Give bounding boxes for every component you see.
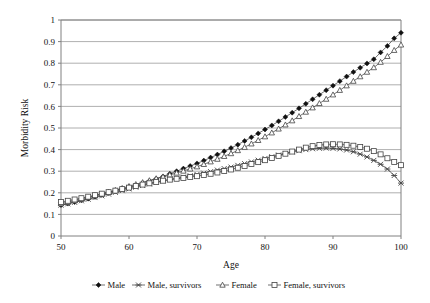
data-point-marker — [263, 158, 268, 163]
data-point-marker — [331, 142, 336, 147]
data-point-marker — [290, 110, 295, 115]
data-point-marker — [371, 65, 376, 70]
data-point-marker — [385, 156, 390, 161]
data-point-marker — [256, 160, 261, 165]
data-point-marker — [350, 149, 356, 154]
data-point-marker — [337, 79, 342, 84]
data-point-marker — [242, 144, 247, 149]
data-point-marker — [351, 70, 356, 75]
x-tick-label: 90 — [329, 242, 339, 252]
chart-legend: MaleMale, survivorsFemaleFemale, survivo… — [92, 280, 346, 290]
y-tick-label: 0.7 — [44, 80, 56, 90]
series-female — [58, 42, 403, 206]
data-point-marker — [317, 143, 322, 148]
data-point-marker — [337, 142, 342, 147]
data-point-marker — [269, 123, 274, 128]
data-point-marker — [256, 138, 261, 143]
data-point-marker — [378, 152, 383, 157]
y-tick-label: 0.8 — [44, 58, 56, 68]
y-tick-label: 0.2 — [44, 188, 55, 198]
data-point-marker — [344, 74, 349, 79]
data-point-marker — [208, 171, 213, 176]
data-point-marker — [310, 105, 315, 110]
data-point-marker — [127, 185, 132, 190]
data-point-marker — [324, 88, 329, 93]
series-male — [59, 30, 404, 207]
data-point-marker — [303, 145, 308, 150]
data-point-marker — [331, 83, 336, 88]
data-point-marker — [222, 153, 227, 158]
legend-item-female-survivors[interactable]: Female, survivors — [268, 280, 346, 290]
data-point-marker — [364, 69, 369, 74]
data-point-marker — [296, 114, 301, 119]
data-point-marker — [229, 167, 234, 172]
x-tick-label: 100 — [394, 242, 408, 252]
data-point-marker — [303, 101, 308, 106]
y-axis-title: Morbidity Risk — [20, 99, 30, 158]
data-point-marker — [215, 156, 220, 161]
x-tick-label: 80 — [261, 242, 271, 252]
data-point-marker — [113, 188, 118, 193]
y-tick-label: 0 — [51, 231, 56, 241]
data-point-marker — [290, 118, 295, 123]
legend-item-female[interactable]: Female — [216, 280, 257, 290]
data-point-marker — [303, 109, 308, 114]
data-point-marker — [235, 165, 240, 170]
data-point-marker — [337, 87, 342, 92]
series-line — [61, 148, 401, 205]
y-tick-label: 0.6 — [44, 102, 56, 112]
x-axis-ticks: 5060708090100 — [57, 236, 409, 252]
data-point-marker — [392, 159, 397, 164]
data-point-marker — [272, 283, 277, 288]
data-point-marker — [96, 283, 101, 288]
data-point-marker — [358, 74, 363, 79]
data-point-marker — [208, 159, 213, 164]
morbidity-risk-chart: 00.10.20.30.40.50.60.70.80.91 5060708090… — [0, 0, 430, 303]
data-point-marker — [235, 142, 240, 147]
data-point-marker — [344, 83, 349, 88]
data-point-marker — [72, 197, 77, 202]
data-point-marker — [378, 162, 384, 167]
data-point-marker — [317, 101, 322, 106]
data-point-marker — [324, 96, 329, 101]
data-point-marker — [79, 196, 84, 201]
data-point-marker — [344, 148, 350, 153]
data-point-marker — [106, 190, 111, 195]
data-point-marker — [161, 178, 166, 183]
legend-item-male-survivors[interactable]: Male, survivors — [132, 280, 202, 290]
data-point-marker — [276, 119, 281, 124]
data-point-marker — [249, 162, 254, 167]
data-point-marker — [242, 164, 247, 169]
data-point-marker — [351, 143, 356, 148]
grid-lines — [61, 20, 401, 214]
data-point-marker — [222, 168, 227, 173]
data-point-marker — [65, 198, 70, 203]
data-point-marker — [262, 134, 267, 139]
legend-label: Male, survivors — [148, 280, 203, 290]
x-tick-label: 50 — [57, 242, 67, 252]
data-point-marker — [351, 78, 356, 83]
x-tick-label: 60 — [125, 242, 135, 252]
data-point-marker — [365, 146, 370, 151]
data-point-marker — [364, 154, 370, 159]
data-point-marker — [188, 175, 193, 180]
data-point-marker — [154, 180, 159, 185]
data-point-marker — [201, 161, 206, 166]
data-point-marker — [283, 114, 288, 119]
data-point-marker — [357, 152, 363, 157]
data-point-marker — [140, 182, 145, 187]
data-point-marker — [215, 170, 220, 175]
data-point-marker — [371, 158, 377, 163]
data-point-marker — [310, 97, 315, 102]
chart-canvas: 00.10.20.30.40.50.60.70.80.91 5060708090… — [0, 0, 430, 303]
legend-item-male[interactable]: Male — [92, 280, 125, 290]
data-point-marker — [181, 175, 186, 180]
legend-label: Female, survivors — [284, 280, 346, 290]
data-point-marker — [358, 145, 363, 150]
data-point-marker — [365, 61, 370, 66]
data-point-marker — [371, 149, 376, 154]
data-point-marker — [344, 142, 349, 147]
data-point-marker — [201, 173, 206, 178]
data-point-marker — [269, 156, 274, 161]
series-line — [61, 45, 401, 204]
